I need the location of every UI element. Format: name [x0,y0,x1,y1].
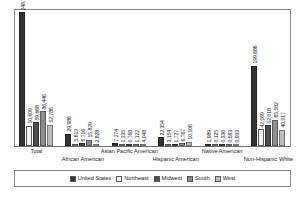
bar-wrapper: 0,125 [212,10,218,146]
bar-wrapper: 4,048 [140,10,146,146]
legend-swatch-icon [215,176,221,182]
bar-wrapper: 1,122 [133,10,139,146]
legend-label: South [195,175,210,182]
legend-item[interactable]: United States [70,175,112,182]
legend-item[interactable]: Northeast [116,175,148,182]
bar[interactable] [33,122,39,146]
legend-item[interactable]: West [215,175,236,182]
bar-value-label: 4,048 [141,130,147,142]
bar-wrapper: 65,582 [272,10,278,146]
chart-legend: United StatesNortheastMidwestSouthWest [14,170,291,187]
bar-wrapper: 1,989 [205,10,211,146]
bar[interactable] [265,125,271,146]
bar[interactable] [158,137,164,146]
bar-wrapper: 5,613 [72,10,78,146]
category-label: Hispanic American [153,156,199,163]
bar-wrapper: 0,336 [219,10,225,146]
bar-wrapper: 50,609 [26,10,32,146]
bar-wrapper: 2,828 [93,10,99,146]
bar-value-label: 40,017 [280,113,286,128]
bar-value-label: 248,711 [21,0,27,10]
bar-wrapper: 40,017 [279,10,285,146]
legend-label: West [223,175,236,182]
bar[interactable] [251,66,257,146]
legend-label: United States [78,175,112,182]
bar[interactable] [279,130,285,146]
category-label: Non-Hispanic White [244,156,293,163]
bar-wrapper: 52,786 [47,10,53,146]
bar[interactable] [272,120,278,146]
bar-value-label: 2,828 [95,130,101,142]
category-axis: TotalAfrican AmericanAsian Pacific Ameri… [14,148,291,168]
legend-label: Northeast [124,175,148,182]
bar-wrapper: 1,727 [172,10,178,146]
bar-wrapper: 22,354 [158,10,164,146]
bar[interactable] [26,126,32,146]
bar-wrapper: 15,829 [86,10,92,146]
bar-value-label: 0,933 [234,130,240,142]
bar[interactable] [258,129,264,146]
bar-group: 248,71150,60959,66886,44652,786 [19,10,54,146]
legend-item[interactable]: Midwest [154,175,183,182]
legend-label: Midwest [162,175,183,182]
bar-wrapper: 248,711 [19,10,25,146]
category-label: African American [62,156,104,163]
legend-swatch-icon [70,176,76,182]
legend-swatch-icon [187,176,193,182]
bar-wrapper: 42,069 [258,10,264,146]
bar[interactable] [19,12,25,146]
bar-value-label: 52,786 [49,108,55,123]
chart-root: 248,71150,60959,66886,44652,78629,9865,6… [0,0,305,198]
axis-baseline [14,146,291,147]
bar-group: 29,9865,6136,71615,8292,828 [65,10,100,146]
bar-group: 1,9890,1250,3360,5630,933 [205,10,240,146]
bar-group: 199,68642,06952,01865,58240,017 [251,10,286,146]
bar[interactable] [65,134,71,146]
bar-wrapper: 3,154 [165,10,171,146]
bar-wrapper: 6,716 [79,10,85,146]
bar-wrapper: 0,563 [226,10,232,146]
legend-swatch-icon [116,176,122,182]
bar-wrapper: 1,335 [119,10,125,146]
bar-wrapper: 0,768 [126,10,132,146]
bar-value-label: 10,106 [188,125,194,140]
category-label: Total [31,148,43,155]
bar-wrapper: 0,933 [233,10,239,146]
category-label: Asian Pacific American [101,148,158,155]
bar-wrapper: 29,986 [65,10,71,146]
legend-swatch-icon [154,176,160,182]
legend-item[interactable]: South [187,175,210,182]
bar-wrapper: 199,686 [251,10,257,146]
bar-wrapper: 10,106 [186,10,192,146]
bar-wrapper: 86,446 [40,10,46,146]
bar-wrapper: 52,018 [265,10,271,146]
bar[interactable] [40,111,46,146]
bar-group: 7,2741,3350,7681,1224,048 [112,10,147,146]
bar[interactable] [47,125,53,146]
bar-wrapper: 7,274 [112,10,118,146]
bar-wrapper: 59,668 [33,10,39,146]
bar-group: 22,3543,1541,7276,76710,106 [158,10,193,146]
bar-groups: 248,71150,60959,66886,44652,78629,9865,6… [16,10,289,146]
category-label: Native American [202,148,243,155]
bar-wrapper: 6,767 [179,10,185,146]
